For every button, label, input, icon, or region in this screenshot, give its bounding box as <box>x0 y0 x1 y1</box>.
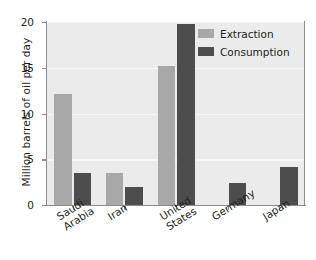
legend-label: Consumption <box>220 46 290 58</box>
x-axis-label: UnitedStates <box>158 195 199 233</box>
x-axis-label-line: Iran <box>106 201 130 222</box>
legend-item-extraction: Extraction <box>198 26 302 41</box>
bar-chart: Million barrels of oil per day 05101520 … <box>0 0 316 260</box>
y-tick-mark <box>42 159 46 160</box>
x-axis-label-line: Germany <box>209 187 256 223</box>
x-axis-label-line: Japan <box>261 197 292 223</box>
x-axis-label: Iran <box>106 202 129 223</box>
legend-swatch-icon <box>198 47 214 56</box>
legend-swatch-icon <box>198 29 214 38</box>
y-tick-mark <box>42 22 46 23</box>
x-axis-label: Japan <box>261 197 292 222</box>
legend-label: Extraction <box>220 28 274 40</box>
x-axis-label: SaudiArabia <box>55 195 96 232</box>
legend-item-consumption: Consumption <box>198 44 302 59</box>
x-axis-label: Germany <box>210 187 257 222</box>
y-tick-mark <box>42 205 46 206</box>
y-tick-mark <box>42 68 46 69</box>
y-tick-mark <box>42 114 46 115</box>
legend: Extraction Consumption <box>198 26 302 62</box>
